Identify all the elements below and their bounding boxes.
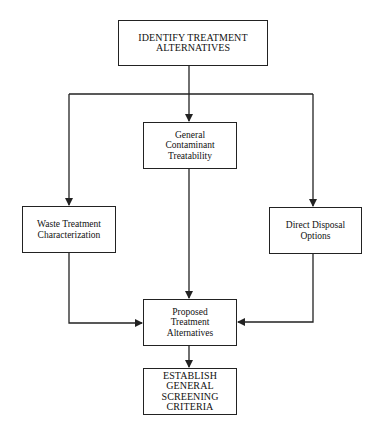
edge-direct-proposed [238,254,313,322]
node-label: General Contaminant Treatability [165,130,214,162]
node-proposed-treatment-alternatives: Proposed Treatment Alternatives [143,299,237,346]
edge-waste-proposed [69,253,142,323]
node-label: Proposed Treatment Alternatives [167,307,213,339]
node-general-contaminant-treatability: General Contaminant Treatability [143,122,237,169]
node-waste-treatment-characterization: Waste Treatment Characterization [22,206,116,253]
node-label: Direct Disposal Options [286,220,345,241]
node-label: IDENTIFY TREATMENT ALTERNATIVES [138,33,247,54]
node-label: Waste Treatment Characterization [37,219,101,240]
node-direct-disposal-options: Direct Disposal Options [269,207,362,254]
node-label: ESTABLISH GENERAL SCREENING CRITERIA [161,371,218,413]
flowchart-canvas: IDENTIFY TREATMENT ALTERNATIVES General … [0,0,384,439]
node-identify-treatment-alternatives: IDENTIFY TREATMENT ALTERNATIVES [118,20,268,66]
node-establish-general-screening-criteria: ESTABLISH GENERAL SCREENING CRITERIA [143,368,237,415]
